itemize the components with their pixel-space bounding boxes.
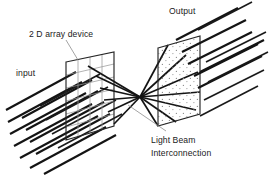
- interconnection-label-line2: Interconnection: [151, 148, 211, 158]
- optical-interconnect-diagram: input 2 D array device Output Light Beam…: [0, 0, 269, 178]
- output-panel: [158, 36, 200, 126]
- output-panel-stipple: [158, 36, 200, 126]
- input-label: input: [16, 68, 36, 78]
- diagram-canvas: input 2 D array device Output Light Beam…: [0, 0, 269, 178]
- array-device-label: 2 D array device: [29, 29, 93, 39]
- interconnection-label-line1: Light Beam: [151, 135, 195, 145]
- array-device-panel: [66, 52, 114, 140]
- output-label: Output: [169, 6, 196, 16]
